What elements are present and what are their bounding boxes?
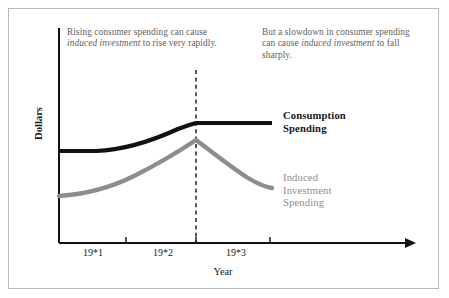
annotation-left: Rising consumer spending can cause induc… <box>67 27 219 50</box>
figure-container: Rising consumer spending can cause induc… <box>0 0 449 298</box>
annotation-right-italic: induced investment <box>301 38 374 48</box>
series-label-consumption-line2: Spending <box>283 123 346 136</box>
annotation-left-part1: Rising consumer spending can cause <box>67 27 207 37</box>
series-label-induced-investment: Induced Investment Spending <box>283 172 332 210</box>
y-axis-title: Dollars <box>33 94 44 154</box>
annotation-left-italic: induced investment <box>67 38 140 48</box>
series-label-induced-line2: Investment <box>283 185 332 198</box>
x-tick-label-1: 19*2 <box>133 247 193 258</box>
series-line-consumption-spending <box>59 123 272 151</box>
series-label-consumption: Consumption Spending <box>283 110 346 135</box>
series-label-consumption-line1: Consumption <box>283 110 346 123</box>
x-axis-title: Year <box>183 266 263 277</box>
x-axis-arrow-icon <box>405 238 416 248</box>
series-line-induced-investment <box>59 140 272 196</box>
annotation-right: But a slowdown in consumer spending can … <box>262 27 422 61</box>
x-tick-label-0: 19*1 <box>63 247 123 258</box>
series-label-induced-line3: Spending <box>283 197 332 210</box>
annotation-left-part2: to rise very rapidly. <box>140 38 217 48</box>
x-tick-label-2: 19*3 <box>206 247 266 258</box>
series-label-induced-line1: Induced <box>283 172 332 185</box>
